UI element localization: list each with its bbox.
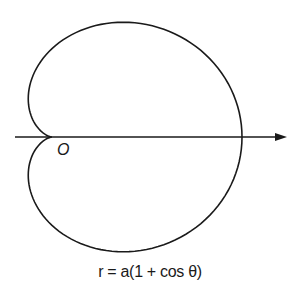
cardioid-diagram (0, 0, 300, 303)
arrow-right-icon (275, 133, 287, 141)
origin-label: O (57, 141, 69, 159)
equation-caption: r = a(1 + cos θ) (0, 263, 300, 281)
